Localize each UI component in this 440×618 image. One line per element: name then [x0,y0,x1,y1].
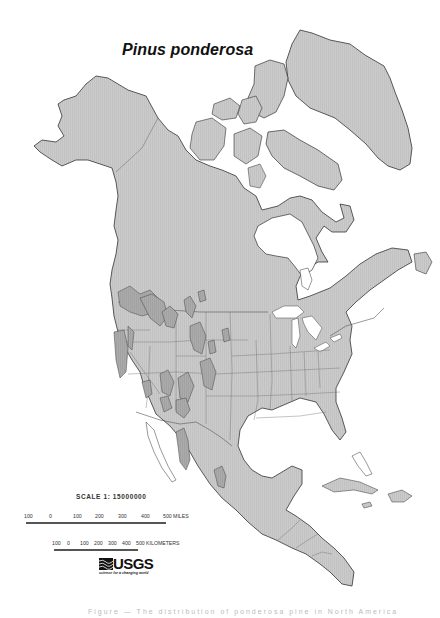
arctic-island-2 [238,96,262,124]
cuba [322,478,378,494]
arctic-island-1 [212,98,240,120]
km-tick: 300 [108,540,117,546]
miles-tick: 300 [118,513,127,519]
km-tick: 100 [80,540,89,546]
miles-tick: 0 [49,513,52,519]
km-tick: 400 [122,540,131,546]
km-tick: 100 [52,540,61,546]
victoria-island [190,118,226,160]
banks-island [234,128,262,164]
miles-tick: 500 MILES [163,513,189,519]
usgs-wave-icon [99,558,113,570]
hispaniola [388,490,412,502]
km-tick: 200 [94,540,103,546]
miles-tick: 400 [141,513,150,519]
km-tick: 500 KILOMETERS [136,540,180,546]
gulf-of-california [146,422,176,482]
miles-tick: 200 [95,513,104,519]
newfoundland [414,252,432,274]
bahamas [352,452,372,476]
north-america-map [0,0,440,618]
scale-label: SCALE 1: 15000000 [76,493,147,500]
figure-caption: Figure — The distribution of ponderosa p… [88,608,398,615]
usgs-logo: USGS science for a changing world [99,557,155,575]
usgs-wordmark: USGS [113,557,153,571]
jamaica [362,502,372,508]
range-map: Pinus ponderosa SCALE 1: 15000000 100 0 … [0,0,440,618]
map-title: Pinus ponderosa [122,41,253,59]
km-tick: 0 [67,540,70,546]
miles-tick: 100 [24,513,33,519]
usgs-tagline: science for a changing world [99,571,155,575]
miles-tick: 100 [73,513,82,519]
baffin-island [266,130,342,190]
somerset-island [248,164,266,188]
